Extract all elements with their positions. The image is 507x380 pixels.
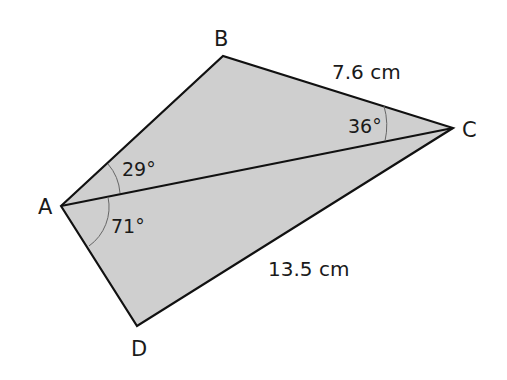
vertex-label-d: D: [131, 337, 147, 361]
side-label-cd: 13.5 cm: [268, 257, 349, 281]
side-label-bc: 7.6 cm: [332, 60, 401, 84]
angle-label-cad: 71°: [111, 215, 145, 237]
vertex-label-c: C: [462, 118, 477, 142]
quadrilateral-diagram: B C A D 7.6 cm 13.5 cm 29° 71° 36°: [0, 0, 507, 380]
vertex-label-b: B: [214, 27, 228, 51]
angle-label-bca: 36°: [348, 115, 382, 137]
angle-label-bac: 29°: [122, 158, 156, 180]
vertex-label-a: A: [38, 195, 53, 219]
